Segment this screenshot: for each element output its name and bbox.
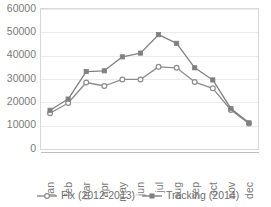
data-point-marker <box>247 121 251 125</box>
series-fix <box>48 64 252 126</box>
series-line <box>50 67 249 124</box>
y-tick-label: 50000 <box>7 25 36 37</box>
y-tick-label: 60000 <box>7 2 36 14</box>
legend-label: Tracking (2014) <box>166 189 239 201</box>
y-tick-label: 40000 <box>7 48 36 60</box>
data-point-marker <box>229 107 233 111</box>
line-chart: 0100002000030000400005000060000 janfebma… <box>0 0 271 207</box>
data-point-marker <box>156 33 160 37</box>
legend-marker <box>45 194 50 199</box>
y-axis-tick-labels: 0100002000030000400005000060000 <box>7 2 36 154</box>
x-tick-label-dec: dec <box>243 182 255 199</box>
data-point-marker <box>102 69 106 73</box>
x-tick-label-jun: jun <box>134 182 146 197</box>
legend-label: Fix (2012-2013) <box>61 189 135 201</box>
data-point-marker <box>175 41 179 45</box>
y-tick-label: 10000 <box>7 118 36 130</box>
data-point-marker <box>138 77 143 82</box>
gridlines <box>41 10 258 150</box>
data-point-marker <box>192 80 197 85</box>
data-point-marker <box>48 108 52 112</box>
data-point-marker <box>210 86 215 91</box>
y-tick-label: 20000 <box>7 95 36 107</box>
data-point-marker <box>156 64 161 69</box>
data-point-marker <box>120 77 125 82</box>
legend-marker <box>150 194 154 198</box>
x-tick-label-jul: jul <box>153 182 165 194</box>
data-point-marker <box>66 97 70 101</box>
data-point-marker <box>120 55 124 59</box>
data-point-marker <box>138 51 142 55</box>
data-point-marker <box>84 80 89 85</box>
data-point-marker <box>84 69 88 73</box>
series-tracking <box>48 33 251 125</box>
data-point-marker <box>193 66 197 70</box>
y-tick-label: 30000 <box>7 72 36 84</box>
data-point-marker <box>102 84 107 89</box>
data-point-marker <box>211 78 215 82</box>
chart-canvas: 0100002000030000400005000060000 janfebma… <box>0 0 271 207</box>
data-point-marker <box>174 65 179 70</box>
y-tick-label: 0 <box>30 142 36 154</box>
series-line <box>50 35 249 123</box>
